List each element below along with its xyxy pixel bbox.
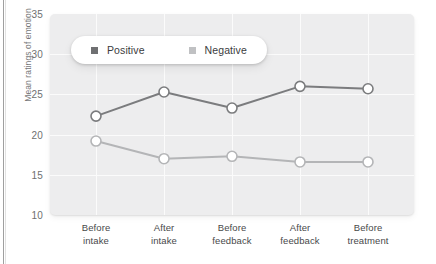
plot-area: PositiveNegative — [50, 14, 414, 215]
y-axis-tick-label: 35 — [31, 9, 43, 20]
y-axis-tick-label: 25 — [31, 89, 43, 100]
x-axis-tick-labels: BeforeintakeAfterintakeBeforefeedbackAft… — [50, 222, 414, 262]
x-axis-tick-label-line: treatment — [325, 235, 411, 248]
y-axis-tick-label: 10 — [31, 210, 43, 221]
data-point-marker[interactable] — [295, 157, 305, 167]
legend-item[interactable]: Positive — [91, 44, 145, 56]
square-swatch-icon — [91, 47, 98, 54]
data-point-marker[interactable] — [363, 157, 373, 167]
data-point-marker[interactable] — [295, 81, 305, 91]
y-axis-tick-label: 30 — [31, 49, 43, 60]
data-point-marker[interactable] — [363, 84, 373, 94]
legend-item[interactable]: Negative — [189, 44, 247, 56]
square-swatch-icon — [189, 47, 196, 54]
data-point-marker[interactable] — [227, 103, 237, 113]
y-axis-tick-labels: 353025201510 — [0, 0, 46, 264]
legend-item-label: Negative — [205, 44, 247, 56]
line-chart: Mean ratings of emotion 353025201510 Pos… — [0, 0, 436, 264]
data-point-marker[interactable] — [159, 87, 169, 97]
legend-item-label: Positive — [107, 44, 145, 56]
data-point-marker[interactable] — [91, 136, 101, 146]
x-axis-tick-label-line: Before — [325, 222, 411, 235]
data-point-marker[interactable] — [227, 151, 237, 161]
chart-legend: PositiveNegative — [71, 36, 267, 64]
data-point-marker[interactable] — [91, 111, 101, 121]
y-axis-tick-label: 20 — [31, 129, 43, 140]
data-point-marker[interactable] — [159, 154, 169, 164]
series-markers — [91, 81, 373, 167]
y-axis-tick-label: 15 — [31, 169, 43, 180]
x-axis-tick-label: Beforetreatment — [325, 222, 411, 247]
